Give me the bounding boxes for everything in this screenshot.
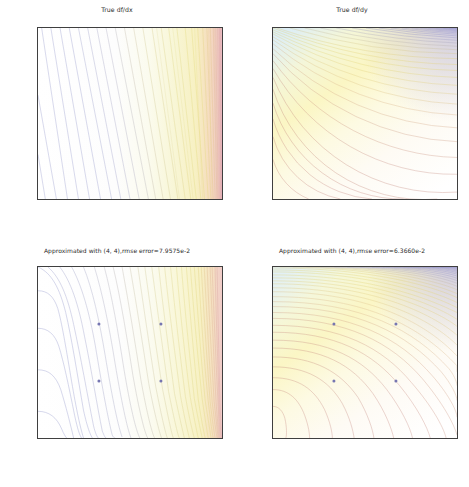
panel-title-approx-dfdx: Approximated with (4, 4),rmse error=7.95…: [0, 247, 234, 254]
panel-true-dfdx: True df/dx: [0, 0, 234, 243]
axes-approx-dfdy: 0.0 0.2 0.4 0.6 0.8 1.0 0.0 0.2 0.4 0.6 …: [272, 266, 458, 439]
panel-approx-dfdy: Approximated with (4, 4),rmse error=6.36…: [235, 244, 469, 487]
panel-approx-dfdx: Approximated with (4, 4),rmse error=7.95…: [0, 244, 234, 487]
contour-surface-approx-dfdy: [273, 267, 457, 438]
panel-title-true-dfdx: True df/dx: [0, 6, 234, 13]
contour-surface-approx-dfdx: [38, 267, 222, 438]
contour-surface-true-dfdx: [38, 28, 222, 199]
panel-title-true-dfdy: True df/dy: [235, 6, 469, 13]
contour-surface-true-dfdy: [273, 28, 457, 199]
axes-approx-dfdx: 0.0 0.2 0.4 0.6 0.8 1.0 0.0 0.2 0.4 0.6 …: [37, 266, 223, 439]
contour-figure: True df/dx: [0, 0, 469, 487]
panel-true-dfdy: True df/dy: [235, 0, 469, 243]
axes-true-dfdy: 0.0 0.2 0.4 0.6 0.8 1.0 0.0 0.2 0.4 0.6 …: [272, 27, 458, 200]
axes-true-dfdx: 0.0 0.2 0.4 0.6 0.8 1.0 0.0 0.2 0.4 0.6 …: [37, 27, 223, 200]
panel-title-approx-dfdy: Approximated with (4, 4),rmse error=6.36…: [235, 247, 469, 254]
